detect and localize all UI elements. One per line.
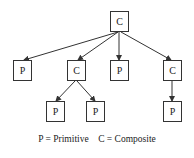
node-primitive: P: [163, 101, 182, 122]
node-composite: C: [163, 60, 182, 81]
node-root-composite: C: [110, 11, 129, 32]
edge-n2-n6: [77, 81, 95, 101]
legend: P = Primitive C = Composite: [0, 134, 194, 144]
edge-root-n1: [24, 32, 118, 60]
node-primitive: P: [86, 101, 105, 122]
node-primitive: P: [13, 60, 32, 81]
node-primitive: P: [110, 60, 129, 81]
node-composite: C: [67, 60, 86, 81]
edge-root-n2: [78, 32, 118, 60]
edge-root-n4: [121, 32, 171, 60]
edge-n2-n5: [56, 81, 75, 101]
node-primitive: P: [46, 101, 65, 122]
